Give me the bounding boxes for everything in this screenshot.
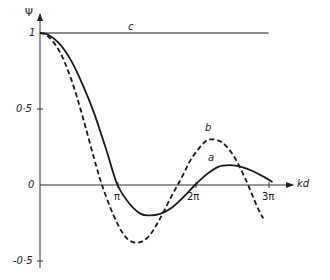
tick-label-y-0: 0 [28,180,34,190]
tick-label-x-3pi: 3π [262,192,274,202]
tick-label-y-1: 1 [29,28,35,38]
curve-a [40,33,273,215]
tick-label-x-2pi: 2π [187,192,199,202]
y-axis-label: Ψ [25,8,33,18]
chart-canvas [0,0,330,280]
x-axis-label: kd [297,179,309,189]
curve-label-a: a [208,153,214,163]
curve-label-c: c [128,22,134,32]
curve-label-b: b [205,123,211,133]
tick-label-x-pi: π [114,192,120,202]
tick-label-y-neg-0.5: -0·5 [13,256,33,266]
series-layer [40,33,273,243]
tick-label-y-0.5: 0·5 [16,104,32,114]
